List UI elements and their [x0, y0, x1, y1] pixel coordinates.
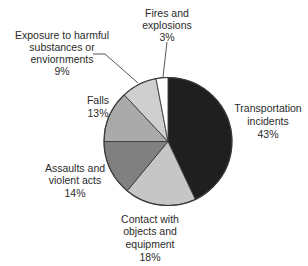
slice-label-line: incidents: [247, 115, 288, 127]
slice-label-line: enviornments: [30, 53, 93, 65]
slice-label-assaults-and-violent-acts: Assaults andviolent acts14%: [45, 162, 105, 199]
slice-percent: 14%: [64, 187, 85, 199]
pie-chart: Transportationincidents43%Contact withob…: [0, 0, 308, 266]
slice-label-fires-and-explosions: Fires andexplosions3%: [142, 7, 192, 43]
leader-line-exposure-to-harmful-substances-or-enviornments: [93, 54, 138, 83]
slice-label-line: equipment: [125, 238, 174, 250]
slice-percent: 43%: [257, 128, 278, 140]
slice-label-exposure-to-harmful-substances-or-enviornments: Exposure to harmfulsubstances orenviornm…: [15, 29, 109, 77]
pie-slices: [104, 78, 232, 206]
leader-lines: [93, 42, 167, 83]
slice-label-line: Falls: [87, 94, 109, 106]
slice-label-transportation-incidents: Transportationincidents43%: [234, 102, 301, 140]
slice-label-line: Exposure to harmful: [15, 29, 109, 41]
slice-label-line: Fires and: [145, 7, 189, 19]
slice-label-line: Contact with: [121, 213, 179, 225]
slice-label-line: Assaults and: [45, 162, 105, 174]
slice-percent: 18%: [139, 251, 160, 263]
slice-label-line: objects and: [123, 225, 177, 237]
slice-label-line: substances or: [29, 41, 95, 53]
slice-label-line: explosions: [142, 19, 192, 31]
slice-percent: 13%: [87, 107, 108, 119]
slice-label-line: Transportation: [234, 102, 301, 114]
slice-percent: 3%: [159, 31, 174, 43]
slice-label-falls: Falls13%: [87, 94, 109, 119]
slice-percent: 9%: [54, 65, 69, 77]
slice-label-line: violent acts: [49, 174, 102, 186]
leader-line-fires-and-explosions: [163, 42, 167, 77]
slice-label-contact-with-objects-and-equipment: Contact withobjects andequipment18%: [121, 213, 179, 263]
